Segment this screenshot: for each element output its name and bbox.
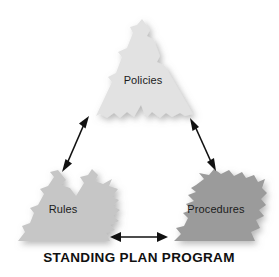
figure-caption: STANDING PLAN PROGRAM <box>43 250 235 265</box>
connector-policies-procedures <box>190 118 216 171</box>
connector-policies-procedures-arrowhead-upper <box>190 118 199 131</box>
policies-shape <box>96 19 193 118</box>
connector-rules-procedures-arrowhead-right <box>157 232 168 242</box>
connector-rules-procedures-arrowhead-left <box>110 232 121 242</box>
connector-policies-rules-arrowhead-upper <box>79 116 89 129</box>
connector-policies-procedures-line <box>194 124 212 164</box>
connector-policies-rules-line <box>66 122 85 166</box>
connector-policies-procedures-arrowhead-lower <box>207 158 216 171</box>
policies-label: Policies <box>124 74 163 86</box>
rules-label: Rules <box>49 203 78 215</box>
diagram-canvas: Policies Rules Procedures <box>0 0 279 277</box>
node-policies[interactable] <box>96 19 193 118</box>
connector-rules-procedures <box>110 232 168 242</box>
standing-plan-program-figure: Policies Rules Procedures <box>0 0 279 277</box>
connector-policies-rules <box>62 116 89 172</box>
procedures-label: Procedures <box>187 203 245 215</box>
connector-policies-rules-arrowhead-lower <box>62 159 72 172</box>
